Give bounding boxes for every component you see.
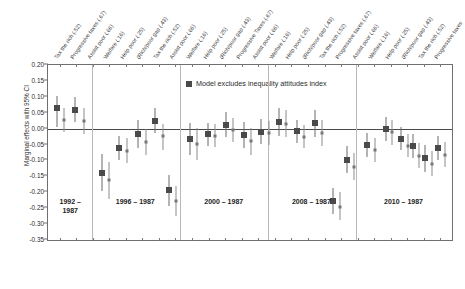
x-axis-tick-mark — [358, 64, 359, 67]
x-axis-tick-mark — [258, 238, 259, 241]
data-point-marker — [214, 134, 217, 137]
data-point-marker — [398, 136, 404, 142]
y-axis-tick-label: 0.05 — [32, 108, 44, 115]
x-axis-tick-mark — [192, 64, 193, 67]
data-point-marker — [161, 135, 164, 138]
data-point-marker — [135, 131, 141, 137]
panel-divider — [180, 65, 181, 240]
x-axis-tick-mark — [76, 64, 77, 67]
x-axis-tick-mark — [142, 238, 143, 241]
data-point-marker — [267, 132, 270, 135]
x-axis-tick-mark — [291, 238, 292, 241]
data-point-marker — [83, 120, 86, 123]
x-axis-tick-mark — [159, 64, 160, 67]
y-axis-tick-label: -0.35 — [29, 236, 44, 243]
data-point-marker — [152, 118, 158, 124]
x-axis-tick-mark — [93, 238, 94, 241]
data-point-marker — [99, 170, 105, 176]
panel-caption: 2010 – 1987 — [364, 198, 444, 207]
data-point-marker — [249, 140, 252, 143]
y-axis-tick-label: 0.15 — [32, 76, 44, 83]
chart-root: Tax the rich (.52)Progressive taxes (.67… — [0, 0, 465, 289]
data-point-marker — [443, 153, 446, 156]
x-axis-tick-mark — [308, 64, 309, 67]
x-axis-tick-label: (Rich/poor gap (.43) — [301, 16, 334, 60]
x-axis-tick-mark — [126, 64, 127, 67]
data-point-marker — [364, 142, 370, 148]
x-axis-tick-mark — [358, 238, 359, 241]
x-axis-tick-mark — [440, 64, 441, 67]
data-point-marker — [422, 155, 428, 161]
data-point-marker — [166, 187, 172, 193]
x-axis-tick-mark — [126, 238, 127, 241]
legend-label: Model excludes inequality attitudes inde… — [196, 79, 327, 88]
x-axis-tick-mark — [209, 64, 210, 67]
x-axis-tick-mark — [175, 238, 176, 241]
data-point-marker — [391, 130, 394, 133]
data-point-marker — [241, 132, 247, 138]
data-point-marker — [223, 122, 229, 128]
data-point-marker — [374, 148, 377, 151]
panel-divider — [268, 65, 269, 240]
x-axis-tick-mark — [275, 64, 276, 67]
y-axis-tick-label: 0.00 — [32, 124, 44, 131]
data-point-marker — [320, 131, 323, 134]
y-axis-tick-label: 0.20 — [32, 61, 44, 68]
x-axis-tick-mark — [258, 64, 259, 67]
data-point-marker — [116, 145, 122, 151]
data-point-marker — [126, 149, 129, 152]
x-axis-tick-mark — [175, 64, 176, 67]
x-axis-tick-mark — [109, 238, 110, 241]
x-axis-tick-mark — [440, 238, 441, 241]
data-point-marker — [196, 142, 199, 145]
y-axis-tick-label: -0.30 — [29, 220, 44, 227]
data-point-marker — [353, 165, 356, 168]
x-axis-tick-mark — [242, 64, 243, 67]
x-axis-tick-mark — [225, 64, 226, 67]
data-point-marker — [417, 154, 420, 157]
x-axis-tick-mark — [407, 64, 408, 67]
data-point-marker — [108, 179, 111, 182]
data-point-marker — [410, 143, 416, 149]
panel-caption: 2008 – 1987 — [271, 198, 351, 207]
data-point-marker — [205, 131, 211, 137]
x-axis-tick-mark — [60, 64, 61, 67]
x-axis-tick-mark — [325, 64, 326, 67]
chart-legend: Model excludes inequality attitudes inde… — [186, 79, 327, 88]
x-axis-tick-mark — [209, 238, 210, 241]
y-axis-title: Marginal effects with 95% CI — [23, 46, 30, 206]
data-point-marker — [144, 141, 147, 144]
data-point-marker — [63, 119, 66, 122]
x-axis-tick-mark — [60, 238, 61, 241]
data-point-marker — [344, 157, 350, 163]
data-point-marker — [406, 144, 409, 147]
data-point-marker — [72, 107, 78, 113]
x-axis-tick-mark — [76, 238, 77, 241]
y-axis-tick-label: 0.10 — [32, 92, 44, 99]
y-axis-tick-label: -0.10 — [29, 156, 44, 163]
x-axis-tick-mark — [291, 64, 292, 67]
x-axis-tick-mark — [341, 238, 342, 241]
x-axis-tick-mark — [109, 64, 110, 67]
x-axis-tick-mark — [374, 238, 375, 241]
x-axis-tick-mark — [407, 238, 408, 241]
x-axis-tick-mark — [424, 64, 425, 67]
x-axis-tick-mark — [308, 238, 309, 241]
x-axis-tick-mark — [424, 238, 425, 241]
x-axis-tick-mark — [225, 238, 226, 241]
panel-caption: 2000 – 1987 — [184, 198, 264, 207]
data-point-marker — [312, 120, 318, 126]
x-axis-tick-mark — [242, 238, 243, 241]
x-axis-tick-mark — [275, 238, 276, 241]
confidence-interval-bar — [56, 96, 57, 127]
data-point-marker — [383, 126, 389, 132]
data-point-marker — [232, 128, 235, 131]
x-axis-tick-mark — [192, 238, 193, 241]
data-point-marker — [276, 119, 282, 125]
data-point-marker — [430, 162, 433, 165]
data-point-marker — [435, 145, 441, 151]
x-axis-tick-mark — [142, 64, 143, 67]
data-point-marker — [285, 122, 288, 125]
x-axis-tick-mark — [325, 238, 326, 241]
legend-marker-icon — [186, 81, 192, 87]
